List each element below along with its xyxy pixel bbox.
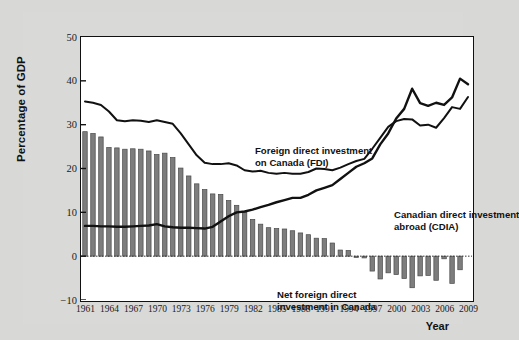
annotation-cdia: Canadian direct investment abroad (CDIA) xyxy=(394,209,519,232)
bar-1963 xyxy=(99,137,103,256)
bar-2003 xyxy=(418,256,422,276)
y-tick-50: 50 xyxy=(51,32,77,43)
y-axis-title: Percentage of GDP xyxy=(15,56,27,162)
bar-1979 xyxy=(226,201,230,257)
annotation-net-line1: Net foreign direct xyxy=(277,289,376,301)
y-tick-40: 40 xyxy=(51,75,77,86)
bar-1970 xyxy=(155,154,159,256)
bar-1967 xyxy=(131,149,135,256)
bar-1961 xyxy=(83,132,87,256)
bar-1981 xyxy=(242,212,246,256)
bar-1997 xyxy=(370,256,374,271)
bar-2002 xyxy=(410,256,414,288)
bar-1971 xyxy=(163,153,167,256)
bar-1993 xyxy=(338,250,342,256)
x-tick-1976: 1976 xyxy=(196,304,215,314)
x-tick-1979: 1979 xyxy=(220,304,239,314)
bar-2004 xyxy=(426,256,430,275)
bar-1976 xyxy=(202,190,206,257)
bar-2005 xyxy=(434,256,438,280)
bar-1962 xyxy=(91,133,95,256)
bar-1999 xyxy=(386,256,390,273)
bar-1968 xyxy=(139,149,143,256)
bar-2001 xyxy=(402,256,406,278)
y-tick-30: 30 xyxy=(51,119,77,130)
bar-1994 xyxy=(346,250,350,256)
bar-1972 xyxy=(171,158,175,257)
annotation-cdia-line1: Canadian direct investment xyxy=(394,209,519,221)
x-tick-1985: 1985 xyxy=(268,304,287,314)
annotation-fdi-line2: on Canada (FDI) xyxy=(255,157,372,169)
bar-1969 xyxy=(147,151,151,256)
bar-2007 xyxy=(450,256,454,283)
bar-1974 xyxy=(186,176,190,256)
bar-1992 xyxy=(330,243,334,256)
bar-1973 xyxy=(179,168,183,256)
x-tick-1970: 1970 xyxy=(148,304,167,314)
bar-2000 xyxy=(394,256,398,274)
chart-svg xyxy=(81,37,472,300)
x-tick-1961: 1961 xyxy=(76,304,95,314)
bar-1965 xyxy=(115,148,119,256)
x-tick-2000: 2000 xyxy=(387,304,406,314)
x-axis-title: Year xyxy=(426,320,449,332)
annotation-fdi: Foreign direct investment on Canada (FDI… xyxy=(255,145,372,168)
x-tick-2003: 2003 xyxy=(411,304,430,314)
bar-1984 xyxy=(266,228,270,256)
y-tick-10: 10 xyxy=(51,207,77,218)
bar-1991 xyxy=(322,239,326,257)
bar-1986 xyxy=(282,229,286,256)
y-tick-neg10: −10 xyxy=(51,295,77,306)
x-tick-1988: 1988 xyxy=(292,304,311,314)
annotation-cdia-line2: abroad (CDIA) xyxy=(394,221,519,233)
x-tick-1994: 1994 xyxy=(339,304,358,314)
annotation-fdi-line1: Foreign direct investment xyxy=(255,145,372,157)
bar-1982 xyxy=(250,219,254,256)
x-axis-tick-labels: 1961196419671970197319761979198219851988… xyxy=(80,304,474,318)
bar-2008 xyxy=(458,256,462,270)
bar-1989 xyxy=(306,235,310,256)
x-tick-1967: 1967 xyxy=(124,304,143,314)
bar-1978 xyxy=(218,194,222,256)
y-tick-20: 20 xyxy=(51,163,77,174)
bar-1966 xyxy=(123,149,127,256)
bar-1987 xyxy=(290,231,294,256)
y-tick-0: 0 xyxy=(51,251,77,262)
y-axis-tick-labels: 50403020100−10 xyxy=(49,36,77,302)
x-tick-2009: 2009 xyxy=(459,304,478,314)
chart-card: Percentage of GDP 50403020100−10 Foreign… xyxy=(23,12,463,324)
bar-1975 xyxy=(194,184,198,256)
bar-1988 xyxy=(298,233,302,256)
x-tick-1991: 1991 xyxy=(315,304,334,314)
bar-1998 xyxy=(378,256,382,279)
x-tick-1982: 1982 xyxy=(244,304,263,314)
x-tick-1997: 1997 xyxy=(363,304,382,314)
bar-1985 xyxy=(274,229,278,257)
bar-1964 xyxy=(107,147,111,256)
plot-area: Foreign direct investment on Canada (FDI… xyxy=(80,36,474,302)
x-tick-1964: 1964 xyxy=(100,304,119,314)
x-tick-1973: 1973 xyxy=(172,304,191,314)
x-tick-2006: 2006 xyxy=(435,304,454,314)
bar-1983 xyxy=(258,224,262,256)
bar-1990 xyxy=(314,238,318,256)
